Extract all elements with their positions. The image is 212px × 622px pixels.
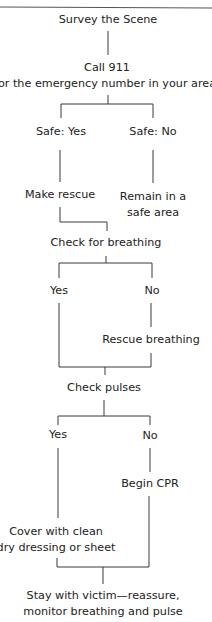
step-stay-with-victim: Stay with victim—reassure, monitor breat…: [23, 588, 182, 619]
branch-breathing-no: No: [144, 283, 159, 299]
step-cover-dressing: Cover with clean dry dressing or sheet: [0, 524, 115, 555]
step-check-breathing: Check for breathing: [51, 235, 162, 251]
connector: [61, 104, 153, 118]
step-make-rescue: Make rescue: [25, 187, 95, 203]
step-remain-safe-area: Remain in a safe area: [120, 189, 186, 220]
branch-pulses-yes: Yes: [49, 427, 67, 443]
step-survey-scene: Survey the Scene: [59, 12, 158, 28]
connector: [59, 263, 152, 278]
step-rescue-breathing: Rescue breathing: [102, 332, 200, 348]
branch-breathing-yes: Yes: [50, 283, 68, 299]
step-check-pulses: Check pulses: [67, 380, 141, 396]
remain-line1: Remain in a: [120, 189, 186, 205]
stay-line1: Stay with victim—reassure,: [23, 588, 182, 604]
remain-line2: safe area: [120, 204, 186, 220]
call-911-line2: or the emergency number in your area: [0, 75, 212, 91]
connector: [58, 416, 150, 425]
call-911-line1: Call 911: [0, 60, 212, 76]
step-begin-cpr: Begin CPR: [121, 476, 179, 492]
stay-line2: monitor breathing and pulse: [23, 603, 182, 619]
branch-safe-yes: Safe: Yes: [36, 124, 86, 140]
step-call-911: Call 911 or the emergency number in your…: [0, 60, 212, 91]
first-aid-flowchart: Survey the Scene Call 911 or the emergen…: [0, 0, 212, 622]
branch-pulses-no: No: [142, 428, 157, 444]
cover-line1: Cover with clean: [0, 524, 115, 540]
branch-safe-no: Safe: No: [129, 124, 176, 140]
cover-line2: dry dressing or sheet: [0, 539, 115, 555]
connector: [60, 207, 107, 231]
top-rule: [0, 7, 212, 8]
